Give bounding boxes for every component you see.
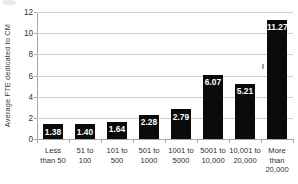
y-axis-title: Average FTE dedicated to CM [0,0,16,150]
y-axis-tick-label: 0 [28,135,33,144]
plot-area: 1.381.401.642.282.796.075.2111.27 [37,12,293,139]
x-axis-tickmark [261,140,262,143]
x-axis-category-label-line: More [258,146,296,156]
bar-value-label: 1.64 [107,124,127,134]
x-axis-tickmark [101,140,102,143]
y-axis-tick-label: 8 [28,50,33,59]
x-axis-category-label: Morethan20,000 [258,146,296,175]
x-axis-tickmark [197,140,198,143]
bar-group[interactable]: 6.07 [203,12,223,139]
y-axis-title-label: Average FTE dedicated to CM [4,23,13,126]
scan-speck-icon [262,64,264,69]
x-axis-tickmark [133,140,134,143]
y-axis-tick-label: 10 [24,29,33,38]
x-axis-line [34,139,294,140]
bar-group[interactable]: 2.28 [139,12,159,139]
x-axis-tickmark [229,140,230,143]
y-axis-tick-label: 4 [28,92,33,101]
bar-value-label: 1.40 [75,127,95,137]
bar-value-label: 1.38 [43,127,63,137]
bar[interactable] [267,20,287,139]
x-axis-tickmark [37,140,38,143]
y-axis-tick-label: 2 [28,113,33,122]
bar-group[interactable]: 5.21 [235,12,255,139]
bar-value-label: 6.07 [203,77,223,87]
bars-layer: 1.381.401.642.282.796.075.2111.27 [37,12,293,139]
y-axis-tick-labels: 024681012 [16,0,36,150]
bar-value-label: 5.21 [235,86,255,96]
x-axis-tickmark [293,140,294,143]
x-axis-category-label-line: than [258,156,296,166]
bar-value-label: 2.28 [139,117,159,127]
bar-value-label: 2.79 [171,112,191,122]
y-axis-tick-label: 12 [24,8,33,17]
bar-group[interactable]: 1.64 [107,12,127,139]
bar-value-label: 11.27 [267,22,287,32]
x-axis-category-label-line: 20,000 [258,165,296,175]
bar-group[interactable]: 11.27 [267,12,287,139]
bar-group[interactable]: 2.79 [171,12,191,139]
x-axis-tickmark [69,140,70,143]
y-axis-tick-label: 6 [28,71,33,80]
x-axis-tickmark [165,140,166,143]
bar-chart: Average FTE dedicated to CM 024681012 1.… [0,0,298,184]
bar-group[interactable]: 1.40 [75,12,95,139]
bar-group[interactable]: 1.38 [43,12,63,139]
